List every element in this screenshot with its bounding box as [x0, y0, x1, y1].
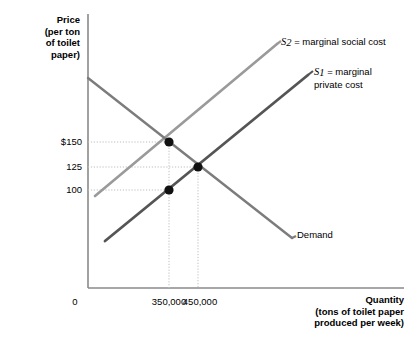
point-private-cost-at-social-quantity: [164, 185, 173, 194]
x-axis-title-line-1: Quantity: [268, 294, 404, 306]
leader-demand: [292, 236, 296, 238]
legend-label-s2: S2 = marginal social cost: [281, 36, 386, 49]
y-axis-title-line-4: paper): [12, 49, 80, 61]
y-axis-title: Price (per ton of toilet paper): [12, 14, 80, 60]
x-axis-title-line-3: produced per week): [268, 317, 404, 329]
y-tick-label-100: 100: [30, 184, 82, 195]
x-tick-label-450000: 450,000: [178, 296, 222, 307]
legend-label-s1: S1 = marginal private cost: [314, 66, 372, 90]
origin-label: 0: [64, 296, 86, 307]
y-axis-title-line-1: Price: [12, 14, 80, 26]
supply-demand-chart: Price (per ton of toilet paper) Quantity…: [0, 0, 409, 348]
y-axis-title-line-2: (per ton: [12, 26, 80, 38]
point-market-equilibrium: [193, 162, 202, 171]
point-social-optimum: [164, 137, 173, 146]
curve-s1-marginal-private-cost: [105, 75, 308, 241]
x-axis-title: Quantity (tons of toilet paper produced …: [268, 294, 404, 329]
legend-s2-text: = marginal social cost: [292, 36, 386, 47]
x-axis-title-line-2: (tons of toilet paper: [268, 306, 404, 318]
legend-s1-text: = marginal: [325, 66, 372, 77]
y-axis-title-line-3: of toilet: [12, 37, 80, 49]
legend-label-demand: Demand: [297, 229, 333, 241]
y-tick-label-125: 125: [30, 161, 82, 172]
y-tick-label-150: $150: [30, 136, 82, 147]
curve-demand: [88, 78, 292, 238]
leader-s1: [308, 71, 313, 75]
legend-s1-line-2: private cost: [314, 79, 372, 91]
legend-s1-line-1: S1 = marginal: [314, 66, 372, 79]
